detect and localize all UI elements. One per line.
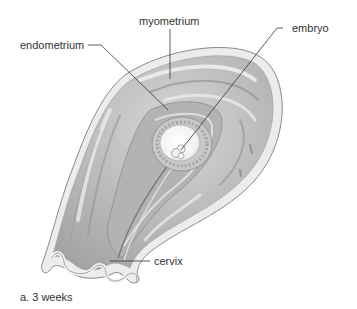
label-embryo: embryo — [292, 23, 329, 34]
gestational-sac — [152, 117, 212, 171]
figure-caption: a. 3 weeks — [20, 292, 73, 303]
label-cervix: cervix — [154, 256, 183, 267]
uterus-diagram: myometrium endometrium embryo cervix a. … — [0, 0, 357, 309]
label-myometrium: myometrium — [139, 16, 200, 27]
label-endometrium: endometrium — [20, 40, 84, 51]
